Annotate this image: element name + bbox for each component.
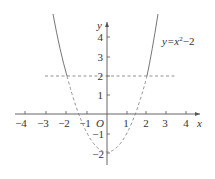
y-tick-labels: 4 3 2 1 −1 −2: [92, 31, 104, 160]
y-tick-label: 1: [98, 89, 104, 101]
x-tick-label: −2: [58, 117, 70, 129]
x-axis-arrow-icon: [195, 112, 200, 116]
y-tick-label: −2: [92, 148, 104, 160]
x-tick-label: 2: [143, 117, 149, 129]
y-tick-label: 4: [98, 31, 104, 43]
x-axis: [15, 112, 200, 116]
x-tick-label: 1: [123, 117, 129, 129]
function-graph: −4 −3 −2 −1 1 2 3 4 x O 4 3 2 1 −1 −2 y …: [0, 0, 215, 179]
x-axis-label: x: [196, 117, 202, 129]
y-tick-label: 3: [98, 51, 104, 63]
x-tick-label: −4: [15, 117, 27, 129]
y-tick-label: −1: [92, 128, 104, 140]
curve-label: y=x2−2: [161, 35, 194, 47]
x-tick-label: −3: [37, 117, 49, 129]
y-axis: [105, 22, 109, 165]
x-tick-label: 3: [162, 117, 168, 129]
y-axis-label: y: [96, 19, 102, 31]
x-tick-label: 4: [183, 117, 189, 129]
y-axis-arrow-icon: [105, 22, 109, 27]
parabola-solid-right: [147, 14, 158, 76]
parabola-solid-left: [53, 14, 67, 76]
